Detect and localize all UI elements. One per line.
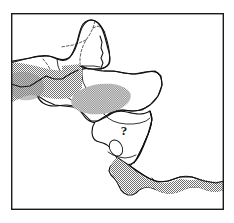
distribution-map-figure: ? (0, 0, 234, 223)
range-patch-yucatan-base (62, 64, 82, 92)
map-canvas: ? (0, 0, 234, 223)
map-content: ? (0, 20, 234, 195)
uncertain-occurrence-marker: ? (121, 123, 128, 138)
